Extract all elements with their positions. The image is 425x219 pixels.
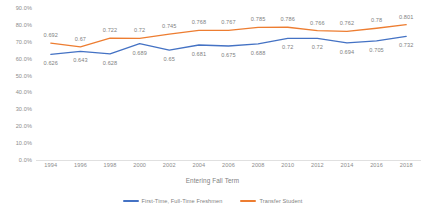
data-label: 0.67: [75, 36, 86, 42]
y-axis-tick-label: 90.0%: [16, 5, 32, 11]
data-label: 0.762: [340, 20, 355, 26]
legend: First-Time, Full-Time Freshmen Transfer …: [0, 198, 425, 204]
legend-item-first-time-full-time-freshmen[interactable]: First-Time, Full-Time Freshmen: [123, 198, 223, 204]
y-axis-tick-label: 50.0%: [16, 73, 32, 79]
y-axis-tick-label: 0.0%: [19, 157, 32, 163]
x-axis-tick-label: 2016: [370, 162, 383, 168]
data-label: 0.626: [44, 60, 59, 66]
data-label: 0.78: [371, 17, 382, 23]
line-chart: 0.0%10.0%20.0%30.0%40.0%50.0%60.0%70.0%8…: [0, 0, 425, 219]
data-label: 0.767: [221, 19, 236, 25]
data-label: 0.766: [310, 20, 325, 26]
y-axis-tick-label: 80.0%: [16, 22, 32, 28]
x-axis-tick-label: 1998: [104, 162, 117, 168]
data-label: 0.72: [282, 44, 293, 50]
x-axis-tick-label: 2002: [163, 162, 176, 168]
data-label: 0.722: [103, 27, 118, 33]
x-axis-tick-label: 2018: [400, 162, 413, 168]
x-axis-tick-label: 1996: [74, 162, 87, 168]
legend-label-series-2: Transfer Student: [259, 198, 302, 204]
data-label: 0.628: [103, 60, 118, 66]
data-label: 0.801: [399, 14, 414, 20]
category-axis-baseline: [36, 160, 421, 161]
data-label: 0.732: [399, 42, 414, 48]
x-axis: 1994199619982000200220042006200820102012…: [36, 162, 421, 176]
x-axis-tick-label: 1994: [44, 162, 57, 168]
data-label: 0.681: [192, 51, 207, 57]
y-axis-tick-label: 20.0%: [16, 123, 32, 129]
legend-swatch-icon-series-2: [240, 200, 256, 202]
legend-label-series-1: First-Time, Full-Time Freshmen: [142, 198, 223, 204]
x-axis-tick-label: 2014: [341, 162, 354, 168]
data-label: 0.694: [340, 49, 355, 55]
y-axis: 0.0%10.0%20.0%30.0%40.0%50.0%60.0%70.0%8…: [0, 8, 36, 160]
plot-area: [36, 8, 421, 160]
legend-item-transfer-student[interactable]: Transfer Student: [240, 198, 302, 204]
data-label: 0.643: [73, 57, 88, 63]
series-lines: [36, 8, 421, 160]
data-label: 0.768: [192, 19, 207, 25]
x-axis-tick-label: 2004: [192, 162, 205, 168]
data-label: 0.745: [162, 23, 177, 29]
x-axis-tick-label: 2000: [133, 162, 146, 168]
x-axis-tick-label: 2006: [222, 162, 235, 168]
data-label: 0.688: [251, 50, 266, 56]
data-label: 0.72: [134, 27, 145, 33]
y-axis-tick-label: 30.0%: [16, 106, 32, 112]
x-axis-tick-label: 2012: [311, 162, 324, 168]
data-label: 0.786: [280, 16, 295, 22]
data-label: 0.689: [132, 50, 147, 56]
data-label: 0.705: [369, 47, 384, 53]
x-axis-title: Entering Fall Term: [0, 177, 425, 184]
data-label: 0.675: [221, 52, 236, 58]
data-label: 0.65: [164, 56, 175, 62]
legend-swatch-icon-series-1: [123, 200, 139, 202]
x-axis-tick-label: 2008: [252, 162, 265, 168]
y-axis-tick-label: 40.0%: [16, 89, 32, 95]
y-axis-tick-label: 60.0%: [16, 56, 32, 62]
data-label: 0.692: [44, 32, 59, 38]
y-axis-tick-label: 70.0%: [16, 39, 32, 45]
data-label: 0.72: [312, 44, 323, 50]
data-label: 0.785: [251, 16, 266, 22]
y-axis-tick-label: 10.0%: [16, 140, 32, 146]
x-axis-tick-label: 2010: [281, 162, 294, 168]
